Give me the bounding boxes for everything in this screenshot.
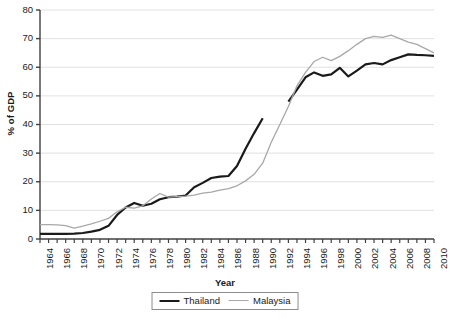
x-axis-tick-label: 1968 xyxy=(78,248,89,269)
line-chart: % of GDP 80706050403020100 1964196619681… xyxy=(0,0,450,318)
x-axis-tick-label: 2002 xyxy=(369,248,380,269)
x-axis-tick-label: 1994 xyxy=(301,248,312,269)
x-axis-tick-label: 1998 xyxy=(335,248,346,269)
x-axis-tick-label: 1988 xyxy=(250,248,261,269)
x-axis-tick-label: 2004 xyxy=(387,248,398,269)
x-axis-tick-label: 2008 xyxy=(421,248,432,269)
y-axis-tick-label: 0 xyxy=(7,233,33,244)
legend-swatch-malaysia-icon xyxy=(229,300,249,301)
x-axis-tick-label: 1982 xyxy=(198,248,209,269)
series-line-thailand xyxy=(40,54,434,233)
x-axis-tick-label: 1976 xyxy=(147,248,158,269)
legend-item-thailand[interactable]: Thailand xyxy=(160,295,220,306)
y-axis-tick-label: 40 xyxy=(7,118,33,129)
x-axis-tick-label: 1986 xyxy=(232,248,243,269)
x-axis-tick-label: 2006 xyxy=(404,248,415,269)
x-axis-tick-label: 2010 xyxy=(438,248,449,269)
x-axis-tick-label: 2000 xyxy=(352,248,363,269)
x-axis-tick-label: 1990 xyxy=(267,248,278,269)
x-axis-tick-label: 1984 xyxy=(215,248,226,269)
x-axis-tick-label: 1974 xyxy=(130,248,141,269)
legend-label-malaysia: Malaysia xyxy=(253,295,291,306)
x-axis-tick-label: 1972 xyxy=(113,248,124,269)
chart-legend: Thailand Malaysia xyxy=(152,292,299,310)
y-axis-tick-label: 60 xyxy=(7,61,33,72)
x-axis-tick-label: 1970 xyxy=(95,248,106,269)
x-axis-title: Year xyxy=(0,277,450,288)
x-axis-tick-label: 1996 xyxy=(318,248,329,269)
x-axis-tick-label: 1964 xyxy=(44,248,55,269)
y-axis-tick-label: 70 xyxy=(7,32,33,43)
y-axis-tick-label: 30 xyxy=(7,147,33,158)
x-axis-tick-label: 1980 xyxy=(181,248,192,269)
x-axis-tick-label: 1966 xyxy=(61,248,72,269)
y-axis-tick-label: 80 xyxy=(7,4,33,15)
y-axis-tick-label: 10 xyxy=(7,204,33,215)
x-axis-tick-label: 1992 xyxy=(284,248,295,269)
plot-area xyxy=(0,0,450,318)
legend-item-malaysia[interactable]: Malaysia xyxy=(229,295,291,306)
y-axis-tick-label: 50 xyxy=(7,89,33,100)
y-axis-tick-label: 20 xyxy=(7,175,33,186)
legend-label-thailand: Thailand xyxy=(184,295,220,306)
legend-swatch-thailand-icon xyxy=(160,300,180,302)
x-axis-tick-label: 1978 xyxy=(164,248,175,269)
